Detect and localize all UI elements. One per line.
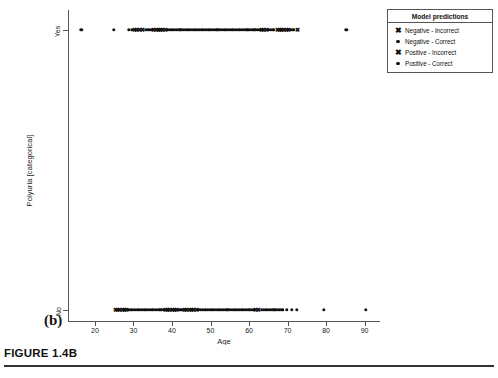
x-tick-label: 60 [245, 327, 253, 334]
legend-entry-label: Positive - Correct [405, 60, 452, 67]
x-tick-label: 80 [322, 327, 330, 334]
x-tick-mark [249, 322, 250, 326]
x-tick-label: 50 [207, 327, 215, 334]
x-tick-mark [365, 322, 366, 326]
x-tick-label: 70 [284, 327, 292, 334]
subplot-label: (b) [44, 312, 62, 329]
legend-entry-label: Positive - Incorrect [405, 49, 456, 56]
x-tick-mark [172, 322, 173, 326]
data-point [290, 308, 293, 311]
data-point [322, 308, 325, 311]
legend-entry: ✖Positive - Incorrect [388, 47, 492, 58]
data-point [285, 308, 288, 311]
cross-marker-icon: ✖ [391, 27, 405, 35]
data-point [112, 28, 115, 31]
data-point: ✖ [294, 27, 300, 33]
data-point [345, 28, 348, 31]
figure-panel: Polyuria [categorical] Yes No ✖✖✖✖✖✖✖✖✖✖… [0, 0, 498, 345]
caption-area: FIGURE 1.4B [0, 345, 498, 378]
legend-entry: Positive - Correct [388, 58, 492, 69]
x-tick-label: 90 [361, 327, 369, 334]
legend-items: ✖Negative - IncorrectNegative - Correct✖… [388, 23, 492, 72]
legend-entry: Negative - Correct [388, 36, 492, 47]
data-point [364, 308, 367, 311]
figure-caption: FIGURE 1.4B [4, 347, 77, 359]
x-tick-label: 20 [91, 327, 99, 334]
legend-entry: ✖Negative - Incorrect [388, 25, 492, 36]
y-axis-label: Polyuria [categorical] [22, 100, 38, 240]
x-tick-mark [133, 322, 134, 326]
plot-area: ✖✖✖✖✖✖✖✖✖✖✖✖✖✖✖✖✖✖✖✖✖✖✖✖✖✖✖✖✖✖✖✖✖✖✖✖✖✖✖✖ [68, 10, 380, 322]
x-tick-mark [326, 322, 327, 326]
y-axis-label-text: Polyuria [categorical] [26, 134, 35, 206]
legend: Model predictions ✖Negative - IncorrectN… [387, 9, 493, 73]
y-tick-label-yes: Yes [50, 18, 66, 44]
x-tick-label: 30 [130, 327, 138, 334]
data-point [80, 28, 83, 31]
scatter-canvas: ✖✖✖✖✖✖✖✖✖✖✖✖✖✖✖✖✖✖✖✖✖✖✖✖✖✖✖✖✖✖✖✖✖✖✖✖✖✖✖✖ [69, 10, 380, 321]
data-point [295, 308, 298, 311]
x-tick-mark [288, 322, 289, 326]
x-tick-mark [95, 322, 96, 326]
legend-entry-label: Negative - Correct [405, 38, 455, 45]
caption-divider [4, 365, 494, 367]
y-tick-label-yes-text: Yes [54, 25, 61, 36]
legend-entry-label: Negative - Incorrect [405, 27, 459, 34]
data-point [281, 308, 284, 311]
legend-title: Model predictions [388, 10, 492, 23]
cross-marker-icon: ✖ [391, 49, 405, 57]
x-tick-label: 40 [168, 327, 176, 334]
x-tick-mark [211, 322, 212, 326]
